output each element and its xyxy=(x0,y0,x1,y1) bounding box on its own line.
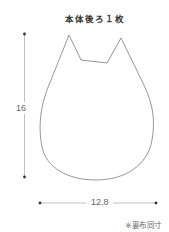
height-dimension-top-dot xyxy=(23,33,26,36)
cat-body-pattern-diagram xyxy=(0,0,169,232)
width-dimension-right-dot xyxy=(155,202,158,205)
width-dimension-left-dot xyxy=(39,202,42,205)
width-dimension-label: 12.8 xyxy=(89,197,111,207)
lining-note: ※裏布同寸 xyxy=(125,219,162,230)
height-dimension-bottom-dot xyxy=(23,176,26,179)
cat-body-outline xyxy=(40,35,153,180)
height-dimension-label: 16 xyxy=(16,102,26,114)
